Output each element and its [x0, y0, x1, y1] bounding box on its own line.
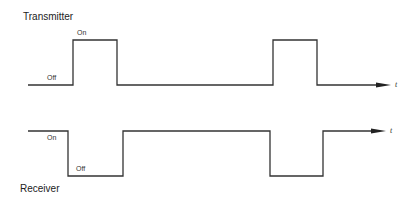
transmitter-off-label: Off — [47, 74, 56, 81]
receiver-title: Receiver — [20, 183, 59, 194]
transmitter-title: Transmitter — [23, 11, 73, 22]
receiver-off-label: Off — [76, 165, 85, 172]
receiver-time-axis-label: t — [390, 126, 392, 135]
transmitter-time-arrow-icon — [376, 83, 391, 88]
transmitter-waveform — [28, 40, 383, 85]
receiver-on-label: On — [47, 134, 56, 141]
receiver-time-arrow-icon — [371, 129, 386, 134]
waveform-diagram — [0, 0, 406, 199]
transmitter-time-axis-label: t — [395, 80, 397, 89]
transmitter-on-label: On — [77, 29, 86, 36]
